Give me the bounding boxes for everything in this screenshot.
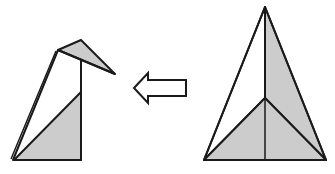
folded-bird-figure <box>11 40 115 160</box>
origami-diagram <box>0 0 335 174</box>
triangle-base-figure <box>204 7 326 160</box>
arrow-left-icon <box>134 73 186 103</box>
